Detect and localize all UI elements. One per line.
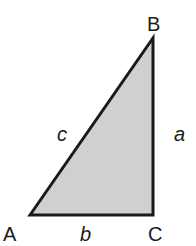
vertex-label-a: A — [3, 223, 17, 245]
side-label-a: a — [174, 123, 185, 145]
vertex-label-c: C — [148, 223, 162, 245]
triangle-diagram: B A C c a b — [0, 0, 196, 246]
side-label-c: c — [57, 123, 67, 145]
side-label-b: b — [80, 223, 91, 245]
triangle-shape — [30, 38, 153, 215]
vertex-label-b: B — [147, 13, 160, 35]
